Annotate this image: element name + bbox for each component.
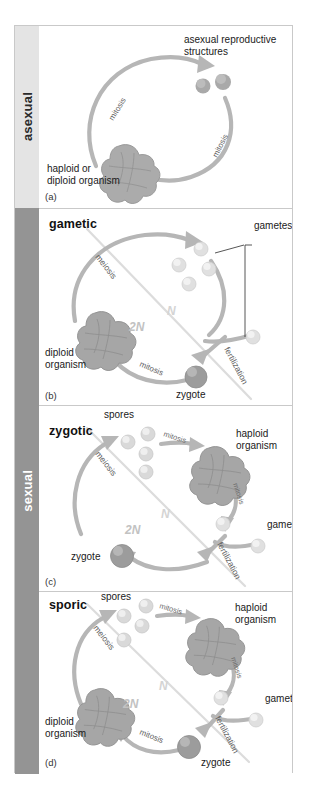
- panel-b-gametic: meiosis fertilization mitosis N 2N gamet…: [39, 208, 292, 405]
- label-spores-c: spores: [104, 409, 134, 421]
- step-mitosis-b: mitosis: [138, 360, 164, 378]
- zygote-sphere-d: [178, 736, 201, 759]
- arrowhead-mitosis-up: [197, 55, 215, 73]
- title-zygotic: zygotic: [49, 424, 93, 438]
- rail-asexual: asexual: [15, 26, 39, 208]
- caption-c: (c): [45, 576, 56, 587]
- label-gametes-d: gametes: [265, 693, 292, 705]
- ploidy-2n-c: 2N: [124, 523, 141, 537]
- caption-b: (b): [45, 390, 57, 401]
- label-zygote-b: zygote: [176, 389, 205, 401]
- panel-c-zygotic: meiosis mitosis mitosis fertilization N …: [39, 405, 292, 591]
- label-haploid-or-diploid-organism: haploid or diploid organism: [47, 163, 120, 186]
- asexual-structure-spheres: [196, 74, 232, 94]
- ploidy-n-d: N: [159, 679, 168, 693]
- arrow-mitosis-up: [89, 57, 202, 166]
- label-zygote-d: zygote: [201, 757, 230, 769]
- title-gametic: gametic: [49, 217, 97, 231]
- step-mitosis-a1: mitosis: [107, 96, 128, 122]
- step-meiosis-c: meiosis: [93, 449, 119, 478]
- ploidy-n-c: N: [161, 507, 170, 521]
- label-zygote-c: zygote: [71, 551, 100, 563]
- label-haploid-organism-c: haploid organism: [236, 428, 277, 451]
- panel-d-sporic: meiosis mitosis mitosis fertilization mi…: [39, 591, 292, 774]
- panel-a-asexual: mitosis mitosis asexual reproductive str…: [39, 26, 292, 208]
- label-diploid-organism-b: diploid organism: [45, 347, 86, 370]
- step-fertilization-b: fertilization: [222, 345, 250, 386]
- spore-spheres-d: [117, 599, 153, 647]
- step-mitosis-d3: mitosis: [138, 728, 164, 746]
- label-diploid-organism-d: diploid organism: [45, 716, 86, 739]
- life-cycle-figure: asexual sexual: [14, 25, 293, 773]
- panel-b-graphics: meiosis fertilization mitosis N 2N: [39, 209, 292, 405]
- zygote-sphere-c: [111, 545, 134, 568]
- arrow-mitosis-spore-d: [157, 615, 189, 617]
- title-sporic: sporic: [49, 598, 87, 612]
- arrowhead-fertilization-d: [195, 722, 212, 738]
- label-gametes-c: gametes: [267, 519, 292, 531]
- caption-a: (a): [45, 191, 57, 202]
- arrow-mitosis-spore-c: [161, 443, 193, 445]
- spore-spheres-c: [121, 427, 155, 479]
- ploidy-2n-d: 2N: [122, 697, 139, 711]
- ploidy-2n-b: 2N: [128, 320, 145, 334]
- arrow-zygote-return-c: [131, 558, 207, 569]
- rail-asexual-label: asexual: [20, 92, 35, 141]
- label-haploid-organism-d: haploid organism: [235, 602, 276, 625]
- step-meiosis-d: meiosis: [91, 623, 117, 652]
- rail-sexual-label: sexual: [20, 470, 35, 512]
- label-spores-d: spores: [101, 591, 131, 603]
- arrowhead-mitosis-spore-d: [185, 609, 201, 624]
- label-gametes-b: gametes: [254, 220, 292, 232]
- step-meiosis-b: meiosis: [93, 252, 119, 281]
- zygote-sphere-b: [185, 366, 207, 388]
- caption-d: (d): [45, 757, 57, 768]
- rail-sexual: sexual: [15, 208, 39, 774]
- label-asexual-reproductive-structures: asexual reproductive structures: [184, 34, 276, 57]
- arrowhead-mitosis-spore-c: [189, 437, 205, 452]
- ploidy-n-b: N: [167, 304, 176, 318]
